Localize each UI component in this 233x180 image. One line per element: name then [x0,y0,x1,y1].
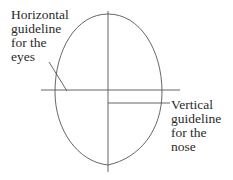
nose-guideline-label: Vertical guideline for the nose [171,98,221,154]
face-oval [55,14,162,165]
eyes-guideline-label: Horizontal guideline for the eyes [11,8,69,64]
